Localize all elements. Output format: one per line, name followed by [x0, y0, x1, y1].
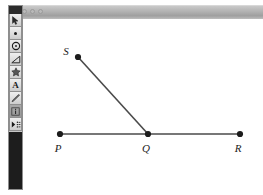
tool-information[interactable] [9, 105, 22, 118]
polygon-icon [11, 67, 21, 77]
window-controls [22, 9, 43, 14]
tool-circle[interactable] [9, 40, 22, 53]
tool-palette-header[interactable] [9, 6, 22, 14]
zoom-icon[interactable] [38, 9, 43, 14]
sketch-canvas[interactable]: S P Q R [24, 19, 263, 195]
tool-marker[interactable] [9, 92, 22, 105]
point-p[interactable] [57, 131, 63, 137]
straightedge-icon [11, 55, 21, 64]
information-icon [11, 107, 20, 116]
label-point-s[interactable]: S [63, 45, 69, 57]
tool-text[interactable]: A [9, 79, 22, 92]
label-point-q[interactable]: Q [142, 142, 150, 154]
tool-point[interactable] [9, 27, 22, 40]
label-point-p[interactable]: P [54, 142, 62, 154]
tool-polygon[interactable] [9, 66, 22, 79]
point-r[interactable] [237, 131, 243, 137]
label-point-r[interactable]: R [234, 142, 242, 154]
application-window: A [0, 0, 263, 195]
point-s[interactable] [75, 54, 81, 60]
circle-icon [11, 41, 21, 51]
marker-pen-icon [11, 94, 21, 103]
tool-palette: A [8, 5, 23, 190]
segment-qs[interactable] [78, 57, 148, 134]
minimize-icon[interactable] [30, 9, 35, 14]
arrow-pointer-icon [11, 16, 20, 25]
tool-arrow-pointer[interactable] [9, 14, 22, 27]
text-a-icon: A [12, 81, 19, 90]
tool-custom[interactable] [9, 118, 22, 131]
custom-tools-icon [11, 120, 21, 129]
tool-list: A [9, 14, 22, 131]
point-q[interactable] [145, 131, 151, 137]
geometry-figure: S P Q R [24, 19, 263, 195]
tool-palette-footer [9, 132, 22, 189]
point-icon [11, 29, 20, 38]
window-title-bar[interactable] [10, 5, 263, 19]
tool-straightedge[interactable] [9, 53, 22, 66]
